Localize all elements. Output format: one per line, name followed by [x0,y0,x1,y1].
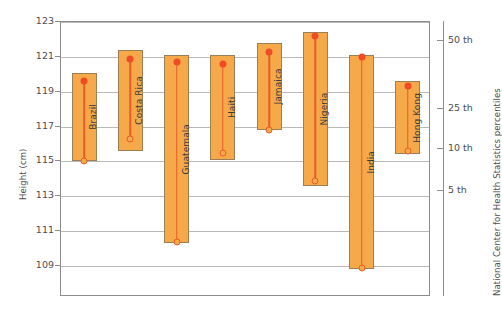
y-axis-tick-label-right: 25 th [448,103,473,113]
bar-label-guatemala: Guatemala [181,124,191,174]
lower-marker [404,147,411,154]
range-stem [407,86,409,150]
right-axis-spine [443,21,444,296]
lower-marker [358,264,365,271]
y-axis-tick-label-left: 113 [26,190,54,200]
range-stem [130,59,132,139]
lower-marker [312,177,319,184]
bar-label-brazil: Brazil [88,104,98,130]
upper-marker [404,83,411,90]
range-stem [268,52,270,130]
range-stem [222,64,224,153]
y-axis-tick-label-left: 123 [26,16,54,26]
range-stem [83,81,85,161]
bar-label-jamaica: Jamaica [273,68,283,104]
lower-marker [81,158,88,165]
lower-marker [219,149,226,156]
upper-marker [81,78,88,85]
gridline [61,22,429,23]
lower-marker [127,135,134,142]
y-axis-tick-label-left: 121 [26,51,54,61]
upper-marker [127,55,134,62]
y-axis-tick-label-right: 5 th [448,185,467,195]
range-stem [176,62,178,242]
upper-marker [173,59,180,66]
bar-label-india: India [366,151,376,174]
bar-label-haiti: Haiti [227,97,237,118]
y-axis-title-left: Height (cm) [18,149,28,201]
y-axis-tick-label-right: 50 th [448,35,473,45]
y-axis-tick-label-left: 111 [26,225,54,235]
lower-marker [266,127,273,134]
upper-marker [312,32,319,39]
bar-label-nigeria: Nigeria [319,93,329,126]
y-axis-tick-label-left: 115 [26,155,54,165]
lower-marker [173,238,180,245]
y-axis-tick-label-left: 109 [26,260,54,270]
bar-label-costa-rica: Costa Rica [134,76,144,125]
upper-marker [266,48,273,55]
y-axis-tick-label-left: 119 [26,86,54,96]
y-axis-title-right: National Center for Health Statistics pe… [492,88,502,296]
plot-area: BrazilCosta RicaGuatemalaHaitiJamaicaNig… [60,21,430,296]
range-stem [315,36,317,181]
y-axis-tick-label-left: 117 [26,121,54,131]
bar-label-hong-kong: Hong Kong [412,93,422,143]
upper-marker [219,60,226,67]
range-stem [361,57,363,268]
upper-marker [358,53,365,60]
y-axis-tick-label-right: 10 th [448,143,473,153]
